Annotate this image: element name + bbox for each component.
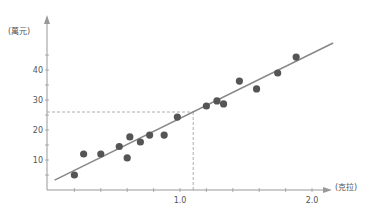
data-point xyxy=(253,85,260,92)
data-point xyxy=(126,133,133,140)
data-point xyxy=(137,138,144,145)
regression-line xyxy=(55,43,334,180)
data-point xyxy=(293,54,300,61)
data-point xyxy=(124,154,131,161)
data-point xyxy=(97,150,104,157)
data-point xyxy=(116,143,123,150)
y-tick-label: 30 xyxy=(33,96,43,105)
y-axis-label: (萬元) xyxy=(8,26,30,36)
data-point xyxy=(80,150,87,157)
data-point xyxy=(274,69,281,76)
data-point xyxy=(71,171,78,178)
dashed-crosshair xyxy=(47,112,193,190)
data-point xyxy=(174,114,181,121)
x-axis-label: (克拉) xyxy=(335,182,357,192)
y-tick-label: 10 xyxy=(33,156,43,165)
x-axis-arrow-icon xyxy=(323,187,332,193)
data-point xyxy=(213,97,220,104)
x-tick-label: 1.0 xyxy=(174,196,187,205)
data-point xyxy=(203,102,210,109)
y-axis-arrow-icon xyxy=(44,15,50,24)
scatter-chart: 102030401.02.0 (萬元) (克拉) xyxy=(0,0,378,213)
trend-line xyxy=(55,43,334,180)
data-point xyxy=(220,100,227,107)
axes xyxy=(44,15,332,193)
data-point xyxy=(146,132,153,139)
ticks: 102030401.02.0 xyxy=(33,55,319,205)
x-tick-label: 2.0 xyxy=(306,196,319,205)
y-tick-label: 20 xyxy=(33,126,43,135)
data-point xyxy=(161,132,168,139)
y-tick-label: 40 xyxy=(33,66,43,75)
data-point xyxy=(236,78,243,85)
